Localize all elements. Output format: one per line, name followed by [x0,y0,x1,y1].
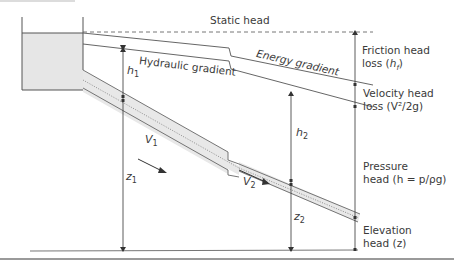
bottom-border-bar [0,258,454,260]
datum-line [30,250,358,251]
label-elevation-head: Elevation head (z) [363,224,412,250]
label-pressure-head: Pressure head (h = p/ρg) [363,160,446,186]
symbol-z1: z1 [126,170,137,185]
symbol-v1: V1 [145,133,158,148]
section-2-measures [288,91,294,252]
symbol-h1: h1 [127,64,139,79]
flow-arrow-v1 [138,159,167,173]
reservoir [22,17,83,90]
section-1-measures [120,47,126,252]
symbol-v2: V2 [243,175,256,190]
symbol-z2: z2 [294,210,305,225]
label-static-head: Static head [210,14,270,27]
label-velocity-head-loss: Velocity head loss (V²/2g) [363,87,434,113]
symbol-h2: h2 [296,126,308,141]
label-friction-head-loss: Friction head loss (hf) [362,44,430,75]
